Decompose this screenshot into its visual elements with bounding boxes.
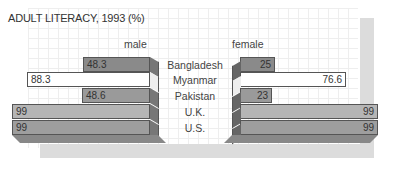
female-bar: 99 [240,120,378,135]
female-label: female [232,38,264,50]
category-label: U.S. [150,120,240,136]
female-floor [224,135,378,143]
male-bar: 99 [12,104,150,119]
category-label: U.K. [150,104,240,120]
female-bar: 76.6 [240,72,346,87]
male-bar: 99 [12,120,150,135]
category-label: Pakistan [150,88,240,104]
male-label: male [124,38,147,50]
female-bar: 23 [240,88,272,103]
category-label: Bangladesh [150,57,240,73]
female-bar: 25 [240,57,275,72]
male-floor [12,135,166,143]
male-bar: 48.3 [83,57,150,72]
chart-title: ADULT LITERACY, 1993 (%) [8,12,144,24]
category-label: Myanmar [150,72,240,88]
male-bar: 48.6 [82,88,150,103]
male-bar: 88.3 [27,72,150,87]
chart-shadow-bottom [40,144,374,158]
female-bar: 99 [240,104,378,119]
